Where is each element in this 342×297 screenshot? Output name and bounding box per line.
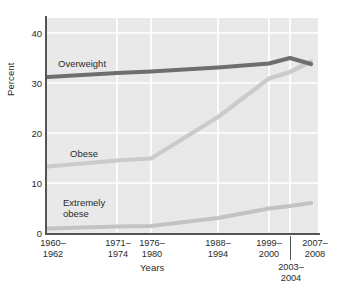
series-label-extremely-obese-line1: Extremely — [63, 197, 105, 208]
x-tick-2007-2008: 2007– 2008 — [290, 238, 340, 260]
x-tick-1976-1980: 1976– 1980 — [126, 238, 178, 260]
y-tick-10: 10 — [16, 178, 42, 189]
x-tick-1999-2000: 1999– 2000 — [243, 238, 295, 260]
x-tick-1960-1962: 1960– 1962 — [27, 238, 79, 260]
series-label-extremely-obese: Extremely obese — [63, 197, 105, 219]
x-tick-line2: 2004 — [265, 273, 317, 284]
x-tick-line2: 2000 — [243, 249, 295, 260]
y-tick-30: 30 — [16, 78, 42, 89]
x-tick-line2: 2008 — [290, 249, 340, 260]
series-label-obese: Obese — [70, 148, 98, 159]
x-tick-line1: 1960– — [27, 238, 79, 249]
x-axis-title: Years — [140, 262, 164, 273]
x-tick-1988-1994: 1988– 1994 — [192, 238, 244, 260]
x-tick-line2: 1994 — [192, 249, 244, 260]
x-tick-line2: 1962 — [27, 249, 79, 260]
y-tick-labels: 40 30 20 10 0 — [14, 0, 42, 240]
chart-figure: Percent Years 40 30 20 10 0 1960– 1962 1… — [0, 0, 342, 297]
series-label-overweight: Overweight — [58, 58, 106, 69]
y-axis-line — [45, 16, 47, 235]
x-tick-line1: 2003– — [265, 262, 317, 273]
x-tick-2003-2004: 2003– 2004 — [265, 262, 317, 284]
y-tick-20: 20 — [16, 128, 42, 139]
x-tick-line1: 1976– — [126, 238, 178, 249]
y-tick-40: 40 — [16, 28, 42, 39]
x-tick-line1: 2007– — [290, 238, 340, 249]
x-axis-line — [45, 233, 320, 235]
x-tick-line2: 1980 — [126, 249, 178, 260]
x-tick-line1: 1999– — [243, 238, 295, 249]
series-label-extremely-obese-line2: obese — [63, 208, 105, 219]
x-tick-line1: 1988– — [192, 238, 244, 249]
gridlines-horizontal — [47, 33, 318, 183]
